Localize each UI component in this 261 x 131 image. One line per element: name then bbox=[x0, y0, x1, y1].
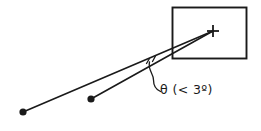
sight-line-far bbox=[23, 31, 213, 112]
observer-point-near bbox=[87, 95, 94, 102]
diagram-svg bbox=[0, 0, 261, 131]
angle-label: θ (< 3º) bbox=[160, 83, 213, 97]
observer-point-far bbox=[19, 108, 26, 115]
figure-canvas: θ (< 3º) bbox=[0, 0, 261, 131]
